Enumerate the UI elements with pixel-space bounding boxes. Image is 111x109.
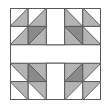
- quilt-block-diagram: [10, 8, 101, 100]
- horizontal-sashing: [10, 45, 101, 63]
- vertical-sashing-top: [46, 8, 64, 45]
- vertical-sashing-bottom: [46, 63, 64, 100]
- quilt-block-svg: [10, 8, 101, 100]
